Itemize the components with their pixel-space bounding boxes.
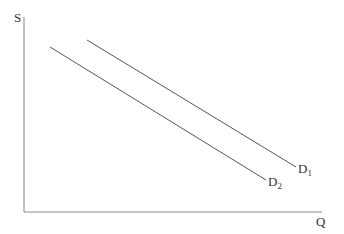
y-axis-label: S xyxy=(14,10,21,25)
x-axis-label: Q xyxy=(316,214,326,229)
d2-label: D2 xyxy=(268,174,282,191)
demand-curve-d2 xyxy=(50,47,266,180)
demand-curve-d1 xyxy=(87,40,296,167)
demand-shift-diagram: S Q D1 D2 xyxy=(0,0,344,234)
d1-label: D1 xyxy=(298,161,312,178)
